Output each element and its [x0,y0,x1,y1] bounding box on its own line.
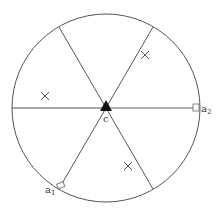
anchor-a2-label: a2 [201,103,211,116]
cross-marker-3 [124,162,132,170]
cross-marker-1 [141,51,149,59]
anchor-a1-box [56,182,64,189]
spoke-lower-right [106,108,153,189]
spoke-lower-left [60,108,106,187]
spoke-upper-left [59,27,106,108]
cross-marker-2 [41,92,49,100]
spoke-upper-right [106,27,153,108]
center-label: c [103,113,109,124]
sector-diagram: c a2 a1 [0,0,218,214]
anchor-a2-box [193,104,199,111]
